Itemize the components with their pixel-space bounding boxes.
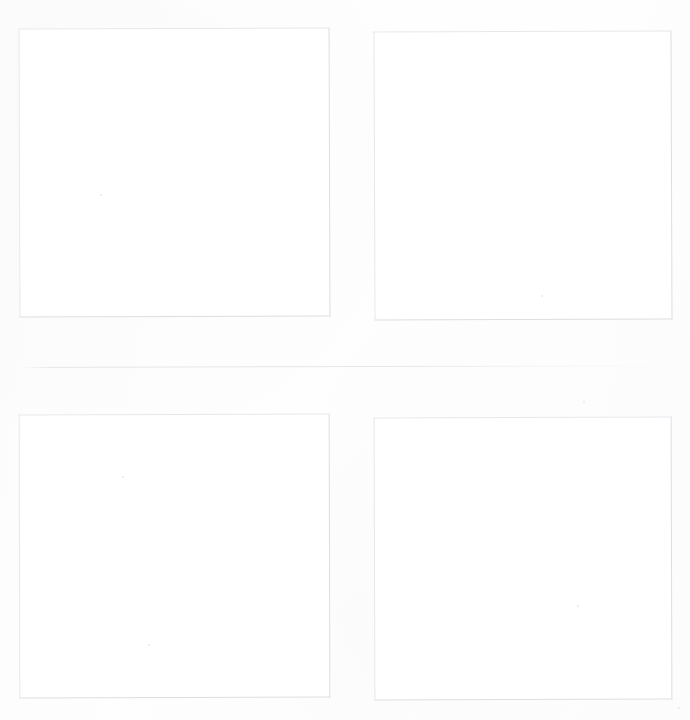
row-divider (20, 365, 685, 368)
scanner-speck (583, 401, 585, 403)
page-canvas (0, 0, 690, 720)
panel-bottom-right[interactable] (374, 417, 673, 701)
panel-bottom-left[interactable] (19, 414, 331, 699)
panel-top-left[interactable] (19, 28, 331, 318)
scanner-speck (678, 707, 680, 709)
panel-top-right[interactable] (373, 30, 672, 320)
